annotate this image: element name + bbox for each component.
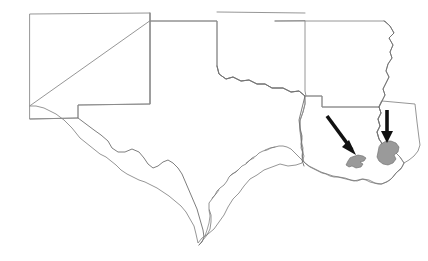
map-background: [0, 0, 428, 261]
map-canvas: [0, 0, 428, 261]
map-figure: [0, 0, 428, 261]
